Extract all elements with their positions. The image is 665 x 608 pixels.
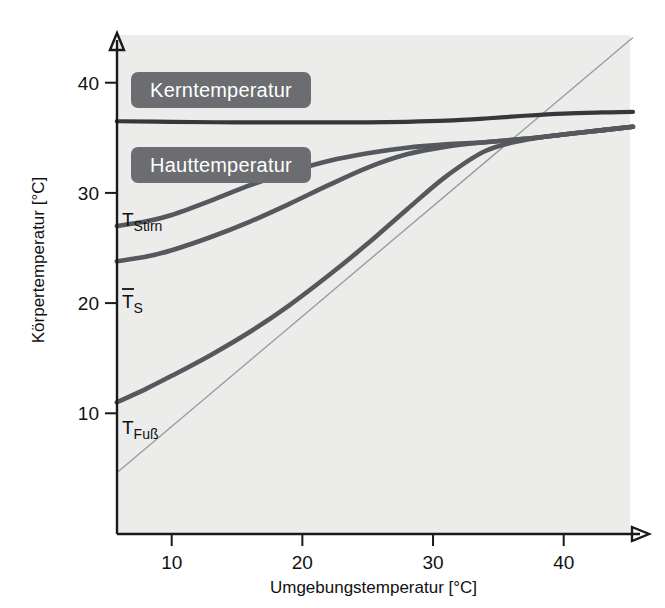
legend-hauttemperatur: Hauttemperatur	[131, 147, 311, 183]
t-stirn-label: TStirn	[122, 209, 162, 234]
y-axis-title: Körpertemperatur [°C]	[29, 140, 53, 380]
chart-canvas: 10203040 10203040 TStirn TS TFuß	[0, 0, 665, 608]
x-axis-ticks	[172, 534, 564, 546]
t-fuss-label: TFuß	[122, 417, 159, 442]
y-axis-tick-labels: 10203040	[78, 73, 99, 425]
y-axis-title-text: Körpertemperatur [°C]	[29, 177, 48, 343]
chart-figure: 10203040 10203040 TStirn TS TFuß Kerntem…	[0, 0, 665, 608]
x-axis-title: Umgebungstemperatur [°C]	[117, 578, 630, 598]
y-tick-label: 40	[78, 73, 99, 94]
t-stirn-base: T	[122, 209, 134, 230]
svg-text:TStirn: TStirn	[122, 209, 162, 234]
t-s-mean-base: T	[122, 291, 134, 312]
legend-kerntemperatur: Kerntemperatur	[131, 72, 311, 108]
x-tick-label: 10	[161, 552, 182, 573]
t-fuss-sub: Fuß	[134, 426, 159, 442]
x-axis-tick-labels: 10203040	[161, 552, 574, 573]
y-tick-label: 30	[78, 183, 99, 204]
y-axis-ticks	[105, 83, 117, 414]
x-axis-title-text: Umgebungstemperatur [°C]	[270, 578, 477, 597]
legend-kerntemperatur-label: Kerntemperatur	[150, 79, 292, 102]
y-tick-label: 20	[78, 293, 99, 314]
svg-text:TS: TS	[122, 291, 143, 316]
x-tick-label: 20	[292, 552, 313, 573]
t-s-mean-sub: S	[134, 300, 143, 316]
y-axis	[110, 33, 124, 534]
x-axis	[117, 527, 649, 541]
t-s-mean-label: TS	[122, 289, 143, 316]
legend-hauttemperatur-label: Hauttemperatur	[150, 154, 292, 177]
x-tick-label: 30	[422, 552, 443, 573]
y-tick-label: 10	[78, 403, 99, 424]
x-tick-label: 40	[553, 552, 574, 573]
t-fuss-base: T	[122, 417, 134, 438]
curve-kerntemperatur	[117, 112, 633, 123]
t-stirn-sub: Stirn	[134, 218, 163, 234]
svg-text:TFuß: TFuß	[122, 417, 159, 442]
